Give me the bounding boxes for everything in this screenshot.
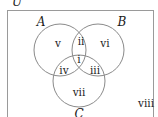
region-ii-label: ii bbox=[78, 35, 85, 47]
venn-diagram: U A B C i ii iii iv v vi vii viii bbox=[0, 0, 158, 117]
set-c-label: C bbox=[74, 107, 83, 117]
set-b-label: B bbox=[117, 15, 127, 29]
region-iii-label: iii bbox=[90, 64, 101, 76]
region-viii-label: viii bbox=[137, 97, 155, 109]
region-iv-label: iv bbox=[59, 64, 68, 76]
region-vii-label: vii bbox=[72, 86, 86, 98]
set-a-label: A bbox=[36, 15, 46, 29]
region-v-label: v bbox=[54, 37, 61, 49]
universe-label: U bbox=[12, 0, 23, 9]
region-vi-label: vi bbox=[99, 37, 110, 49]
